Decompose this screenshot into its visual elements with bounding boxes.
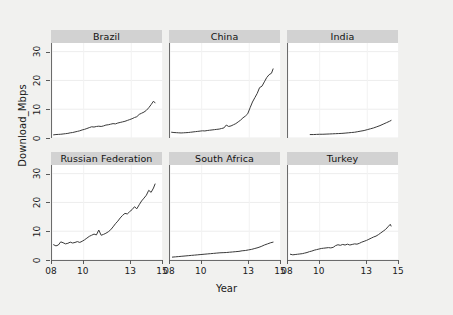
y-tick-mark <box>46 80 50 81</box>
y-axis-ticks: 0102030 <box>30 165 46 260</box>
x-axis-line <box>287 260 398 261</box>
x-tick-mark <box>201 260 202 264</box>
series-plot <box>52 165 163 260</box>
y-tick-label: 30 <box>30 46 46 58</box>
y-tick-mark <box>46 260 50 261</box>
x-axis-line <box>169 260 280 261</box>
panel-plot-area <box>51 165 162 260</box>
y-tick-label: 10 <box>30 103 46 115</box>
panel-plot-area <box>287 165 398 260</box>
x-tick-label: 10 <box>309 266 329 276</box>
y-tick-mark <box>46 231 50 232</box>
x-tick-label: 15 <box>388 266 408 276</box>
panel-plot-area <box>169 43 280 138</box>
y-tick-label: 0 <box>30 254 46 266</box>
panel-strip-label: Brazil <box>51 30 162 43</box>
panel-brazil: Brazil <box>51 30 162 138</box>
x-axis-title: Year <box>0 283 453 294</box>
y-tick-mark <box>46 109 50 110</box>
x-tick-label: 08 <box>41 266 61 276</box>
data-line <box>172 69 273 133</box>
data-line <box>172 242 273 257</box>
y-axis-ticks: 0102030 <box>30 43 46 138</box>
x-tick-label: 08 <box>277 266 297 276</box>
x-axis-line <box>51 260 162 261</box>
data-line <box>310 120 391 134</box>
x-tick-mark <box>130 260 131 264</box>
series-plot <box>170 165 281 260</box>
y-axis-line <box>51 165 52 260</box>
panel-plot-area <box>287 43 398 138</box>
series-plot <box>288 43 399 138</box>
x-tick-label: 13 <box>356 266 376 276</box>
x-tick-label: 13 <box>120 266 140 276</box>
panel-plot-area <box>169 165 280 260</box>
data-line <box>54 184 155 246</box>
y-tick-mark <box>46 138 50 139</box>
panel-south-africa: South Africa <box>169 152 280 260</box>
panel-strip-label: India <box>287 30 398 43</box>
x-tick-mark <box>287 260 288 264</box>
panel-strip-label: South Africa <box>169 152 280 165</box>
x-tick-mark <box>248 260 249 264</box>
x-tick-label: 08 <box>159 266 179 276</box>
y-tick-label: 0 <box>30 132 46 144</box>
x-tick-label: 10 <box>73 266 93 276</box>
x-tick-mark <box>162 260 163 264</box>
panel-plot-area <box>51 43 162 138</box>
y-tick-label: 20 <box>30 196 46 208</box>
x-tick-mark <box>83 260 84 264</box>
y-tick-mark <box>46 174 50 175</box>
panel-india: India <box>287 30 398 138</box>
y-tick-mark <box>46 52 50 53</box>
data-line <box>290 224 391 255</box>
x-tick-label: 10 <box>191 266 211 276</box>
x-tick-mark <box>366 260 367 264</box>
series-plot <box>288 165 399 260</box>
series-plot <box>52 43 163 138</box>
x-tick-mark <box>169 260 170 264</box>
x-tick-mark <box>319 260 320 264</box>
panel-china: China <box>169 30 280 138</box>
x-tick-mark <box>398 260 399 264</box>
panel-russian-federation: Russian Federation <box>51 152 162 260</box>
panel-turkey: Turkey <box>287 152 398 260</box>
x-tick-mark <box>280 260 281 264</box>
x-tick-mark <box>51 260 52 264</box>
y-tick-label: 20 <box>30 74 46 86</box>
panel-strip-label: China <box>169 30 280 43</box>
y-tick-mark <box>46 202 50 203</box>
chart-figure: Download_Mbps Year BrazilChinaIndiaRussi… <box>0 0 453 315</box>
panel-strip-label: Russian Federation <box>51 152 162 165</box>
y-axis-line <box>51 43 52 138</box>
data-line <box>54 101 155 135</box>
y-tick-label: 10 <box>30 225 46 237</box>
y-tick-label: 30 <box>30 168 46 180</box>
x-tick-label: 13 <box>238 266 258 276</box>
y-axis-title: Download_Mbps <box>14 0 30 250</box>
series-plot <box>170 43 281 138</box>
panel-strip-label: Turkey <box>287 152 398 165</box>
